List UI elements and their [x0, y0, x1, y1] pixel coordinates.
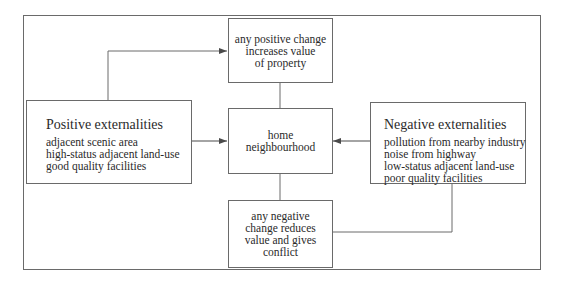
negative-externalities-title: Negative externalities	[384, 117, 525, 133]
negative-externalities-item: pollution from nearby industry	[384, 136, 525, 148]
positive-externalities-item: good quality facilities	[46, 160, 191, 172]
positive-change-box: any positive change increases value of p…	[228, 18, 333, 83]
positive-change-line-2: increases value	[246, 45, 316, 57]
positive-change-line-3: of property	[255, 57, 306, 69]
negative-change-line-3: value and gives	[245, 234, 317, 246]
negative-externalities-item: low-status adjacent land-use	[384, 160, 525, 172]
negative-externalities-item: noise from highway	[384, 148, 525, 160]
arrow-positive-ext-to-positive-change	[108, 51, 227, 100]
positive-externalities-title: Positive externalities	[46, 117, 191, 133]
positive-externalities-item: adjacent scenic area	[46, 136, 191, 148]
home-line-1: home	[268, 129, 294, 141]
positive-externalities-item: high-status adjacent land-use	[46, 148, 191, 160]
negative-change-box: any negative change reduces value and gi…	[228, 200, 333, 268]
positive-change-line-1: any positive change	[235, 33, 326, 45]
positive-externalities-box: Positive externalities adjacent scenic a…	[26, 100, 192, 184]
line-negative-ext-to-negative-change	[333, 183, 452, 232]
negative-change-line-1: any negative	[251, 210, 309, 222]
negative-change-line-2: change reduces	[245, 222, 316, 234]
negative-change-line-4: conflict	[263, 246, 298, 258]
home-neighbourhood-box: home neighbourhood	[228, 108, 333, 174]
home-line-2: neighbourhood	[246, 141, 316, 153]
negative-externalities-item: poor quality facilities	[384, 172, 525, 184]
negative-externalities-box: Negative externalities pollution from ne…	[370, 102, 526, 184]
